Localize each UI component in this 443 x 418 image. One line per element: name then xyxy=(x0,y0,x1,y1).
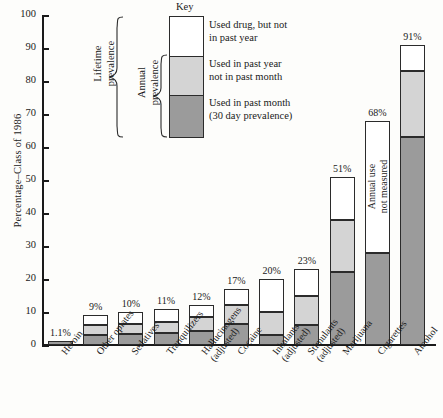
lifetime-prevalence-label-line1: Lifetime xyxy=(92,9,105,119)
legend-entry-past-month: Used in past month (30 day prevalence) xyxy=(209,96,292,122)
legend-entry-not-past-year-line2: in past year xyxy=(209,31,287,44)
bar-segment-not-past-year xyxy=(400,45,425,71)
bar-value-label: 68% xyxy=(347,107,407,118)
y-tick-label: 40 xyxy=(6,206,36,217)
bar-segment-not-past-year xyxy=(154,309,179,322)
y-tick-label: 50 xyxy=(6,173,36,184)
y-tick-label: 10 xyxy=(6,305,36,316)
bar-value-label: 51% xyxy=(312,163,372,174)
bar-value-label: 17% xyxy=(207,275,267,286)
legend-entry-past-month-line2: (30 day prevalence) xyxy=(209,109,292,122)
y-tick-label: 30 xyxy=(6,239,36,250)
legend-divider-1 xyxy=(170,56,203,57)
bar-segment-past-month xyxy=(400,137,425,345)
bar-value-label: 20% xyxy=(242,265,302,276)
bar-segment-not-past-year xyxy=(330,177,355,220)
y-tick-label: 60 xyxy=(6,140,36,151)
bar-segment-not-past-year xyxy=(224,289,249,306)
bar-segment-not-past-year xyxy=(294,269,319,295)
bar-value-label: 12% xyxy=(171,291,231,302)
legend-title: Key xyxy=(176,1,194,12)
in-bar-annotation-line: Annual use xyxy=(366,136,378,236)
legend-divider-2 xyxy=(170,95,203,96)
y-tick-label: 100 xyxy=(6,8,36,19)
bar-segment-not-past-year xyxy=(83,315,108,325)
annual-prevalence-label-line1: Annual xyxy=(136,28,149,138)
legend-swatch-box xyxy=(169,16,204,138)
legend-entry-not-past-year: Used drug, but not in past year xyxy=(209,18,287,44)
legend-entry-past-year-not-month-line2: not in past month xyxy=(209,70,282,83)
y-tick-label: 90 xyxy=(6,41,36,52)
cigarettes-annual-not-measured: Annual usenot measured xyxy=(366,136,389,236)
bar-segment-past-year-not-month xyxy=(83,325,108,335)
legend-swatch-past-year-not-month xyxy=(170,56,203,95)
legend-entry-not-past-year-line1: Used drug, but not xyxy=(209,18,287,31)
bar-segment-past-year-not-month xyxy=(400,71,425,137)
legend-swatch-past-month xyxy=(170,95,203,137)
stacked-bar-chart: Percentage–Class of 1986 010203040506070… xyxy=(0,0,443,418)
legend-entry-past-month-line1: Used in past month xyxy=(209,96,292,109)
lifetime-prevalence-label-line2: prevalence xyxy=(105,9,118,119)
bar-alcohol[interactable] xyxy=(400,45,425,345)
legend-swatch-not-past-year xyxy=(170,17,203,56)
y-tick-label: 20 xyxy=(6,272,36,283)
legend-entry-past-year-not-month-line1: Used in past year xyxy=(209,57,282,70)
bar-value-label: 23% xyxy=(277,255,337,266)
lifetime-prevalence-label: Lifetime prevalence xyxy=(92,9,117,119)
bar-segment-past-year-not-month xyxy=(330,220,355,273)
bar-segment-not-past-year xyxy=(259,279,284,312)
y-tick-label: 70 xyxy=(6,107,36,118)
annual-prevalence-label-line2: prevalence xyxy=(149,28,162,138)
annual-prevalence-label: Annual prevalence xyxy=(136,28,161,138)
bar-value-label: 91% xyxy=(383,31,443,42)
legend-entry-past-year-not-month: Used in past year not in past month xyxy=(209,57,282,83)
y-tick-label: 0 xyxy=(6,338,36,349)
in-bar-annotation-line: not measured xyxy=(377,136,389,236)
y-tick-label: 80 xyxy=(6,74,36,85)
